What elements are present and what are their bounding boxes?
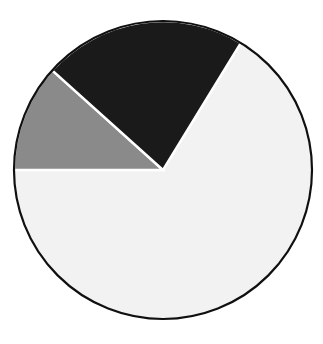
pie-chart-svg [0, 0, 323, 344]
pie-chart-figure [0, 0, 323, 344]
pie-slice-group [14, 21, 312, 319]
